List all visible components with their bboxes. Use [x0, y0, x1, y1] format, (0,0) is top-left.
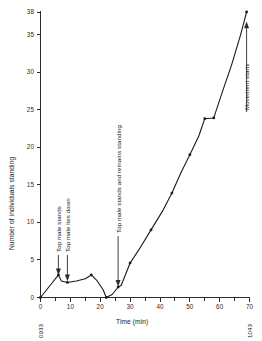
annotation-label-top-male-remains-standing: Top male stands and remains standing — [116, 125, 122, 233]
x-tick-label: 20 — [94, 304, 107, 310]
x-tick-label: 60 — [213, 304, 226, 310]
x-tick-label: 70 — [243, 304, 256, 310]
data-point-marker — [150, 228, 153, 231]
y-tick-label: 10 — [20, 219, 34, 225]
annotation-label-movement-starts: Movement starts — [244, 63, 250, 110]
data-series-line — [41, 12, 247, 298]
data-point-marker — [105, 296, 108, 299]
x-tick-label: 50 — [183, 304, 196, 310]
x-tick-label: 40 — [154, 304, 167, 310]
x-tick-label: 0 — [34, 304, 47, 310]
data-point-marker — [245, 11, 248, 14]
y-tick-label: 30 — [20, 69, 34, 75]
data-point-marker — [203, 117, 206, 120]
y-tick-label: 20 — [20, 144, 34, 150]
data-point-marker — [66, 281, 69, 284]
x-axis-ticks — [41, 298, 250, 302]
x-tick-label: 10 — [64, 304, 77, 310]
y-tick-label: 0 — [20, 295, 34, 301]
y-tick-label: 38 — [20, 9, 34, 15]
start-time-label: 0933 — [38, 324, 44, 338]
data-point-marker — [171, 192, 174, 195]
annotation-label-top-male-lies-down: Top male lies down — [65, 198, 71, 252]
data-point-marker — [188, 153, 191, 156]
data-point-marker — [39, 296, 42, 299]
x-axis-title: Time (min) — [116, 319, 148, 326]
annotation-arrows — [56, 22, 249, 287]
data-point-markers — [39, 11, 248, 299]
y-tick-label: 5 — [20, 257, 34, 263]
data-point-marker — [90, 274, 93, 277]
data-point-marker — [129, 262, 132, 265]
data-point-marker — [212, 117, 215, 120]
y-axis-title: Number of individuals standing — [9, 157, 16, 250]
y-tick-label: 15 — [20, 182, 34, 188]
chart-container: 38 35 30 25 20 15 10 5 0 0 10 20 30 40 5… — [0, 0, 262, 341]
end-time-label: 1043 — [247, 324, 253, 338]
annotation-label-top-male-stands: Top male stands — [56, 206, 62, 252]
y-tick-label: 35 — [20, 32, 34, 38]
y-tick-label: 25 — [20, 107, 34, 113]
line-chart-plot — [0, 0, 262, 341]
x-tick-label: 30 — [124, 304, 137, 310]
y-axis-ticks — [37, 12, 41, 298]
